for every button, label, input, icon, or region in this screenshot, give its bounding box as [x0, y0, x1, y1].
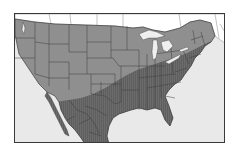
map-canvas [15, 14, 225, 143]
range-map [14, 13, 225, 143]
